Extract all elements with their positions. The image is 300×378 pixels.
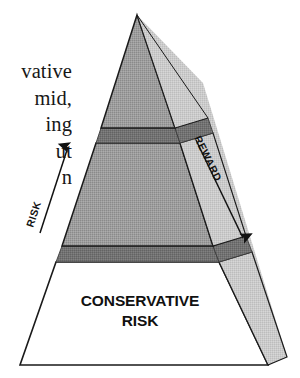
figure-canvas: vative mid, ing ut n [0, 0, 300, 378]
risk-arrow: RISK [23, 147, 68, 233]
risk-reward-pyramid: RISK REWARD CONSERVATIVE RISK [0, 0, 300, 378]
base-tier-caption-line1: CONSERVATIVE [81, 292, 200, 309]
base-tier-caption-line2: RISK [122, 312, 160, 329]
top-tier [101, 15, 208, 128]
scan-edge [0, 374, 300, 378]
middle-tier [62, 133, 246, 246]
risk-arrow-label: RISK [23, 200, 43, 229]
